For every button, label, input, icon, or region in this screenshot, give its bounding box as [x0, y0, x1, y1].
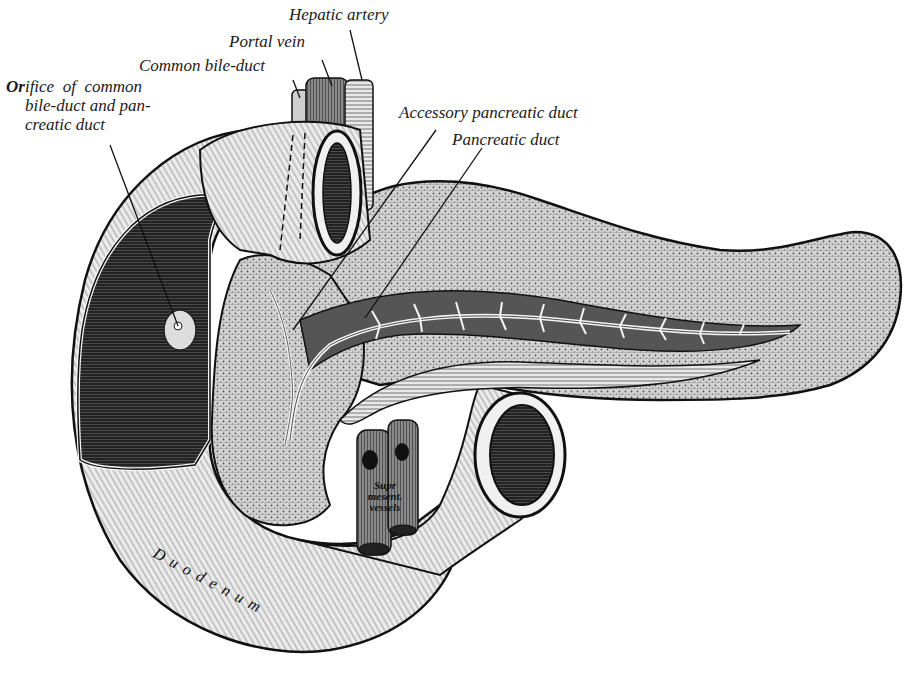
label-hepatic-artery: Hepatic artery — [289, 6, 389, 23]
label-supr-mesent-vessels: Supr mesent. vessels — [355, 480, 415, 513]
label-orifice-line2: bile-duct and pan- — [6, 96, 206, 115]
label-orifice-line3: creatic duct — [6, 115, 206, 134]
label-orifice-bold: Or — [6, 77, 25, 96]
label-supr-line3: vessels — [355, 502, 415, 513]
label-common-bile-duct: Common bile-duct — [139, 57, 265, 74]
superior-mesenteric-artery — [388, 420, 418, 535]
label-pancreatic-duct: Pancreatic duct — [452, 131, 559, 148]
label-orifice-line1: ifice of common — [25, 77, 142, 96]
pancreas-anatomy-figure: Hepatic artery Portal vein Common bile-d… — [0, 0, 920, 673]
label-portal-vein: Portal vein — [229, 33, 305, 50]
pancreas-head — [212, 255, 364, 525]
label-orifice: Orifice of common bile-duct and pan- cre… — [6, 77, 206, 134]
label-accessory-pancreatic-duct: Accessory pancreatic duct — [399, 104, 578, 121]
